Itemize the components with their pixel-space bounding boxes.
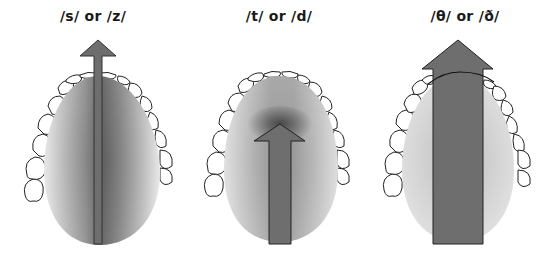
panel-s-z: /s/ or /z/	[0, 0, 186, 263]
panel-t-d: /t/ or /d/	[186, 0, 372, 263]
tongue-diagram-th-dh	[372, 0, 558, 263]
airflow-arrow-icon	[422, 40, 493, 244]
tongue-diagram-t-d	[186, 0, 372, 263]
tongue-diagram-s-z	[0, 0, 186, 263]
panel-th-dh: /θ/ or /ð/	[372, 0, 558, 263]
